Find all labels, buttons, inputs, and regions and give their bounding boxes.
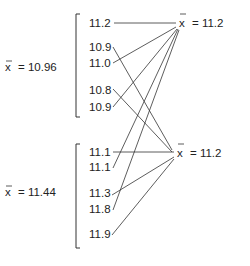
group-2-bracket: [76, 144, 80, 248]
line-11.0-to-top: [113, 27, 176, 63]
group-2-value-3: 11.3: [89, 187, 111, 199]
group-2-value-5: 11.9: [89, 228, 111, 240]
svg-text:x: x: [177, 147, 183, 159]
group-1-value-1: 11.2: [89, 17, 111, 29]
group-2-mean-label: x = 11.44: [5, 186, 56, 198]
group-2-value-4: 11.8: [89, 203, 111, 215]
line-11.3-to-bottom: [112, 157, 174, 195]
group-1-value-4: 10.8: [89, 84, 111, 96]
svg-text:= 10.96: = 10.96: [18, 61, 57, 73]
connection-lines: [112, 23, 179, 235]
target-1-mean-label: x = 11.2: [179, 14, 223, 29]
svg-text:= 11.2: = 11.2: [192, 17, 223, 29]
line-11.9-to-bottom: [112, 159, 174, 235]
group-1-bracket: [76, 14, 80, 117]
svg-text:x: x: [179, 17, 185, 29]
group-1-value-2: 10.9: [89, 41, 111, 53]
svg-text:x: x: [5, 186, 11, 198]
group-2-value-1: 11.1: [89, 146, 111, 158]
group-2-value-2: 11.1: [89, 161, 111, 173]
svg-text:x: x: [5, 61, 11, 73]
line-10.9b-to-top: [113, 29, 177, 107]
regrouping-diagram: x = 10.96 11.2 10.9 11.0 10.8 10.9 x = 1…: [0, 0, 250, 266]
group-1-mean-label: x = 10.96: [5, 61, 57, 73]
line-11.1b-to-top: [113, 29, 178, 168]
svg-text:= 11.44: = 11.44: [18, 186, 56, 198]
group-1-value-5: 10.9: [89, 101, 111, 113]
diagram-svg: x = 10.96 11.2 10.9 11.0 10.8 10.9 x = 1…: [0, 0, 250, 266]
group-1-value-3: 11.0: [89, 57, 111, 69]
svg-text:= 11.2: = 11.2: [190, 147, 221, 159]
target-2-mean-label: x = 11.2: [177, 144, 221, 159]
